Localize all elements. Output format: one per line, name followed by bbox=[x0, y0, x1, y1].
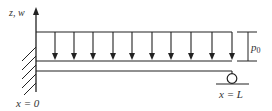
load-magnitude-label: p0 bbox=[250, 41, 261, 55]
right-end-label: x = L bbox=[218, 88, 243, 100]
distributed-load-arrows bbox=[52, 32, 235, 60]
axis-arrow-icon bbox=[33, 7, 39, 15]
left-end-label: x = 0 bbox=[15, 97, 40, 109]
roller-icon bbox=[227, 74, 237, 84]
axis-label: z, w bbox=[8, 7, 25, 18]
beam bbox=[36, 61, 232, 71]
roller-support bbox=[216, 71, 249, 84]
beam-diagram: z, w p0 x = 0 x = bbox=[0, 0, 272, 111]
fixed-support-hatch bbox=[22, 47, 36, 95]
